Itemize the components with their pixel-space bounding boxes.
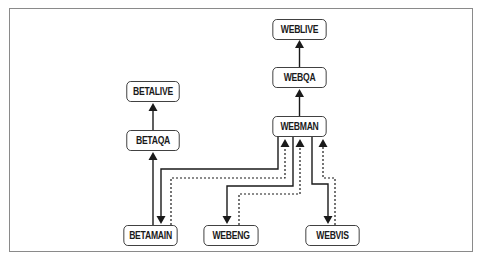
arrowhead-icon	[295, 40, 304, 48]
arrowhead-icon	[295, 89, 304, 97]
node-label: BETALIVE	[133, 86, 173, 97]
node-weblive: WEBLIVE	[272, 19, 326, 40]
arrowhead-icon	[281, 139, 290, 147]
node-betaqa: BETAQA	[126, 130, 179, 151]
edge-betamain-to-betaqa	[149, 152, 158, 225]
edge-webvis-to-webman	[319, 139, 336, 225]
node-label: BETAMAIN	[129, 230, 172, 241]
edge-betamain-to-webman	[171, 139, 290, 225]
arrowhead-icon	[324, 216, 333, 224]
arrowhead-icon	[296, 139, 305, 147]
node-webvis: WEBVIS	[305, 225, 359, 246]
node-label: WEBQA	[284, 72, 316, 83]
node-webman: WEBMAN	[272, 116, 326, 137]
node-webeng: WEBENG	[203, 225, 258, 246]
node-label: BETAQA	[136, 135, 170, 146]
edge-betaqa-to-betalive	[149, 103, 158, 130]
node-label: WEBLIVE	[281, 24, 318, 35]
node-label: WEBENG	[212, 230, 249, 241]
arrowhead-icon	[319, 139, 328, 147]
edge-webman-to-webvis	[312, 137, 333, 224]
arrowhead-icon	[223, 216, 232, 224]
arrowhead-icon	[149, 103, 158, 111]
arrowhead-icon	[149, 152, 158, 160]
edge-webqa-to-weblive	[295, 40, 304, 67]
node-label: WEBVIS	[316, 230, 348, 241]
node-label: WEBMAN	[280, 121, 318, 132]
edge-webman-to-webqa	[295, 89, 304, 116]
node-betalive: BETALIVE	[126, 81, 179, 102]
edge-webeng-to-webman	[239, 139, 305, 225]
arrowhead-icon	[157, 216, 166, 224]
node-webqa: WEBQA	[272, 67, 326, 88]
edges-layer	[0, 0, 482, 259]
edge-webman-to-webeng	[223, 137, 294, 224]
node-betamain: BETAMAIN	[123, 225, 177, 246]
